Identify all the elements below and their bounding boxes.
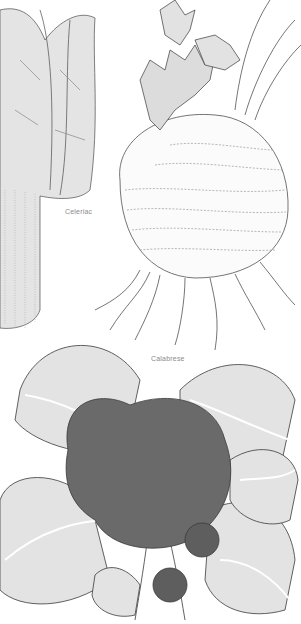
chard-plant (0, 9, 95, 329)
calabrese-plant (0, 345, 298, 620)
label-calabrese: Calabrese (151, 355, 185, 362)
botanical-illustration: Celeriac Calabrese (0, 0, 301, 624)
label-celeriac: Celeriac (65, 208, 92, 215)
celeriac-plant (95, 0, 301, 350)
vegetable-drawing (0, 0, 301, 624)
